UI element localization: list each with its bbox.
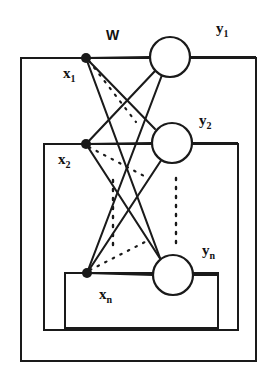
output-label-y2-sub: 2: [207, 120, 212, 131]
middle-rectangle: [44, 144, 238, 330]
output-label-y2: y2: [199, 113, 212, 128]
input-label-x2: x2: [58, 152, 71, 167]
output-label-y1-base: y: [216, 20, 224, 36]
output-neuron-y1: [150, 37, 190, 77]
outer-rectangle: [21, 58, 256, 361]
input-node-x2: [81, 139, 91, 149]
nested-rectangles-group: [21, 58, 256, 361]
input-label-x1: x1: [63, 66, 76, 81]
output-label-yn-sub: n: [210, 250, 216, 261]
connection-x1-y1: [86, 57, 150, 58]
output-label-yn-base: y: [202, 242, 210, 258]
input-label-xn-base: x: [99, 286, 107, 302]
output-label-yn: yn: [202, 243, 215, 258]
output-label-y1: y1: [216, 21, 229, 36]
output-lead-lines-group: [190, 57, 256, 275]
diagram-canvas: [0, 0, 275, 382]
input-label-x1-sub: 1: [71, 73, 76, 84]
network-diagram: W x1 x2 xn y1 y2 yn: [0, 0, 275, 382]
input-label-x2-base: x: [58, 151, 66, 167]
inner-rectangle: [65, 273, 218, 328]
output-neuron-yn: [153, 255, 193, 295]
output-label-y1-sub: 1: [224, 28, 229, 39]
input-node-x1: [81, 53, 91, 63]
output-neuron-y2: [152, 123, 192, 163]
input-label-x1-base: x: [63, 65, 71, 81]
input-node-dots-group: [81, 53, 92, 278]
input-label-xn-sub: n: [107, 294, 113, 305]
connection-x1-yn: [86, 58, 160, 258]
weight-matrix-label: W: [106, 28, 119, 42]
output-label-y2-base: y: [199, 112, 207, 128]
connection-x2-y2: [86, 143, 152, 144]
connection-x2-y1: [86, 71, 155, 144]
dotted-fan-x1: [89, 61, 136, 122]
input-label-x2-sub: 2: [66, 159, 71, 170]
input-label-xn: xn: [99, 287, 112, 302]
connection-lines-group: [86, 57, 162, 275]
input-node-xn: [82, 268, 92, 278]
